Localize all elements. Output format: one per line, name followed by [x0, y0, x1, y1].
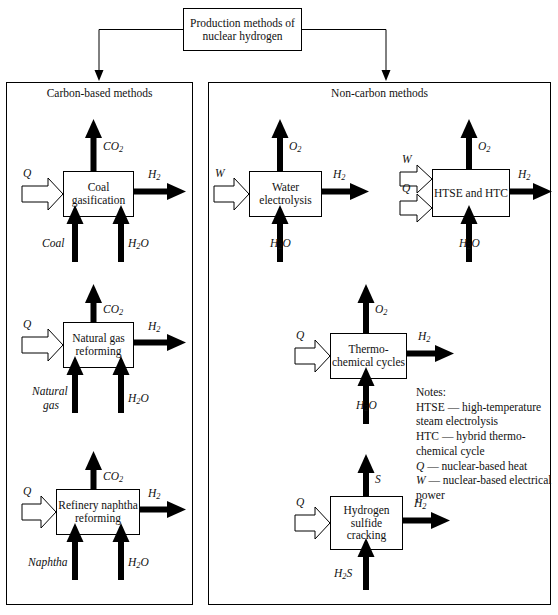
label-s-h2s: S: [375, 473, 381, 485]
label-h2s-feed: H2S: [334, 567, 352, 581]
energy-arrow-q-h2s: [295, 507, 330, 539]
notes-block: Notes: HTSE — high-temperature steam ele…: [416, 385, 551, 503]
notes-line-2: steam electrolysis: [416, 414, 551, 429]
streams-hydrogen-sulfide-cracking: [0, 0, 558, 615]
notes-line-5-text: — nuclear-based heat: [424, 460, 527, 472]
notes-line-7: power: [416, 488, 551, 503]
notes-line-3: HTC — hybrid thermo-: [416, 429, 551, 444]
label-q-h2s: Q: [296, 496, 304, 508]
notes-line-6-text: — nuclear-based electrical: [426, 474, 552, 486]
notes-line-5: Q — nuclear-based heat: [416, 459, 551, 474]
notes-line-6: W — nuclear-based electrical: [416, 473, 551, 488]
notes-heading: Notes:: [416, 385, 551, 400]
notes-line-1: HTSE — high-temperature: [416, 400, 551, 415]
notes-line-4: chemical cycle: [416, 444, 551, 459]
